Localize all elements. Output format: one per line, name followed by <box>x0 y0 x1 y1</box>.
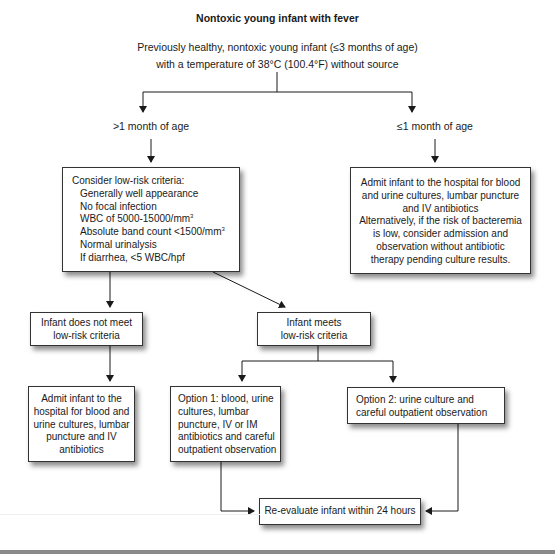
option-2-box: Option 2: urine culture and careful outp… <box>347 387 505 424</box>
box-line: low-risk criteria <box>258 330 370 343</box>
option-1-box: Option 1: blood, urine cultures, lumbar … <box>170 386 281 462</box>
low-risk-criteria-box: Consider low-risk criteria: Generally we… <box>62 167 240 272</box>
neonate-line: and urine cultures, lumbar puncture <box>351 190 530 203</box>
box-line: antibiotics and careful <box>178 431 280 444</box>
criteria-heading: Consider low-risk criteria: <box>72 175 239 188</box>
branch-label-older: >1 month of age <box>100 120 202 132</box>
box-line: puncture, IV or IM <box>178 419 280 432</box>
root-condition-line-1: Previously healthy, nontoxic young infan… <box>0 39 555 56</box>
box-line: outpatient observation <box>178 444 280 457</box>
criteria-item: Normal urinalysis <box>72 239 239 252</box>
box-line: Admit infant to the <box>29 393 134 406</box>
box-line: Option 2: urine culture and <box>356 394 504 407</box>
neonate-line: is low, consider admission and <box>351 228 530 241</box>
box-line: urine cultures, lumbar <box>29 419 134 432</box>
box-line: puncture and IV <box>29 431 134 444</box>
branch-label-younger: ≤1 month of age <box>384 120 486 132</box>
criteria-item: Generally well appearance <box>72 188 239 201</box>
criteria-item: Absolute band count <1500/mm3 <box>72 226 239 239</box>
meets-criteria-box: Infant meets low-risk criteria <box>257 312 371 346</box>
neonate-line: therapy pending culture results. <box>351 254 530 267</box>
box-line: hospital for blood and <box>29 406 134 419</box>
faint-divider <box>0 514 260 515</box>
reevaluate-box: Re-evaluate infant within 24 hours <box>259 498 421 525</box>
admit-infant-box: Admit infant to the hospital for blood a… <box>28 386 135 462</box>
box-line: Infant does not meet <box>31 317 142 330</box>
connector-lines <box>0 0 555 554</box>
root-condition: Previously healthy, nontoxic young infan… <box>0 39 555 73</box>
neonate-line: and IV antibiotics <box>351 203 530 216</box>
criteria-item: No focal infection <box>72 201 239 214</box>
root-condition-line-2: with a temperature of 38°C (100.4°F) wit… <box>0 56 555 73</box>
box-line: Option 1: blood, urine <box>178 393 280 406</box>
criteria-item: If diarrhea, <5 WBC/hpf <box>72 252 239 265</box>
neonate-line: Alternatively, if the risk of bacteremia <box>351 215 530 228</box>
does-not-meet-criteria-box: Infant does not meet low-risk criteria <box>30 312 143 346</box>
box-line: low-risk criteria <box>31 330 142 343</box>
box-line: careful outpatient observation <box>356 407 504 420</box>
box-line: Infant meets <box>258 317 370 330</box>
box-line: antibiotics <box>29 444 134 457</box>
diagram-title: Nontoxic young infant with fever <box>0 12 555 24</box>
neonate-line: Admit infant to the hospital for blood <box>351 177 530 190</box>
bottom-rule <box>0 550 555 554</box>
criteria-item: WBC of 5000-15000/mm3 <box>72 213 239 226</box>
box-line: cultures, lumbar <box>178 406 280 419</box>
neonate-admission-box: Admit infant to the hospital for blood a… <box>350 167 531 274</box>
neonate-line: observation without antibiotic <box>351 241 530 254</box>
reevaluate-text: Re-evaluate infant within 24 hours <box>260 505 420 518</box>
